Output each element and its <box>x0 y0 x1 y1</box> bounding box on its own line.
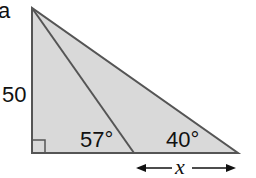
segment-label-x: x <box>174 154 185 178</box>
angle-label-57: 57° <box>80 127 113 152</box>
arrow-right-icon <box>226 164 236 172</box>
dimension-arrow <box>136 164 236 172</box>
outer-triangle <box>32 8 238 153</box>
triangle-diagram: a 50 57° 40° x <box>0 0 256 178</box>
corner-label: a <box>0 0 11 23</box>
angle-label-40: 40° <box>166 127 199 152</box>
side-label-50: 50 <box>2 82 26 107</box>
arrow-left-icon <box>136 164 146 172</box>
